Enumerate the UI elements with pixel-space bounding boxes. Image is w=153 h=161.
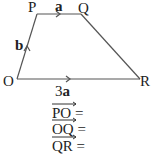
edge-op-label: b bbox=[15, 38, 23, 53]
edge-pq-label: a bbox=[55, 0, 63, 14]
vector-qr: QR bbox=[52, 139, 73, 154]
vector-arrow-icon bbox=[52, 134, 78, 140]
vertex-q-label: Q bbox=[78, 1, 89, 16]
vertex-r-label: R bbox=[140, 74, 150, 89]
edge-or-label: 3a bbox=[55, 84, 70, 99]
question-qr: QR = bbox=[52, 139, 85, 154]
vector-arrow-icon bbox=[52, 101, 78, 107]
vertex-p-label: P bbox=[28, 0, 36, 15]
vector-arrow-icon bbox=[52, 117, 78, 123]
vertex-o-label: O bbox=[3, 74, 14, 89]
edge-qr bbox=[81, 14, 140, 79]
